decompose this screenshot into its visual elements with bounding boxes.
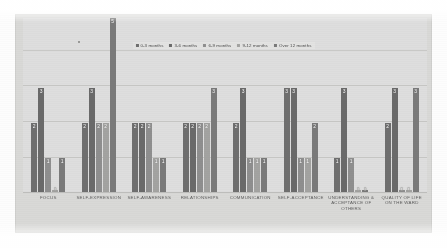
- bar-value-label: 3: [90, 89, 93, 94]
- bar[interactable]: 2: [139, 123, 145, 193]
- bar-value-label: 2: [97, 124, 100, 129]
- bar-value-label: 1: [263, 159, 266, 164]
- bar[interactable]: 3: [392, 88, 398, 193]
- bar[interactable]: 3: [89, 88, 95, 193]
- category-label-7: QUALITY OF LIFE ON THE WARD: [377, 195, 428, 231]
- legend-item-4[interactable]: Over 12 months: [274, 43, 312, 48]
- bar[interactable]: 2: [82, 123, 88, 193]
- bar-value-label: 1: [256, 159, 259, 164]
- bar-value-label: 3: [292, 89, 295, 94]
- bar[interactable]: 1: [334, 158, 340, 193]
- bar[interactable]: 2: [233, 123, 239, 193]
- bar[interactable]: 2: [103, 123, 109, 193]
- bar-value-label: 3: [285, 89, 288, 94]
- bar-value-label: 2: [83, 124, 86, 129]
- bar-value-label: 3: [212, 89, 215, 94]
- category-label-0: FOCUS: [23, 195, 74, 231]
- bar-value-label: 2: [191, 124, 194, 129]
- bar[interactable]: 3: [413, 88, 419, 193]
- legend-swatch-icon: [135, 44, 138, 47]
- bar[interactable]: 1: [153, 158, 159, 193]
- category-label-6: UNDERSTANDING & ACCEPTANCE OF OTHERS: [326, 195, 377, 231]
- bar[interactable]: 3: [291, 88, 297, 193]
- category-label-4: COMMUNICATION: [225, 195, 276, 231]
- scan-artifact: [78, 41, 80, 43]
- bar-value-label: 1: [350, 159, 353, 164]
- bar[interactable]: 2: [183, 123, 189, 193]
- legend-item-0[interactable]: 0-3 months: [135, 43, 163, 48]
- bar[interactable]: 2: [31, 123, 37, 193]
- bar-value-label: 1: [249, 159, 252, 164]
- bar[interactable]: 2: [312, 123, 318, 193]
- bar-value-label: 2: [386, 124, 389, 129]
- bar-value-label: 5: [111, 19, 114, 24]
- bar-value-label: 2: [104, 124, 107, 129]
- bar-value-label: 2: [205, 124, 208, 129]
- legend-label: Over 12 months: [279, 43, 312, 48]
- bar[interactable]: 1: [160, 158, 166, 193]
- category-label-1: SELF-EXPRESSION: [74, 195, 125, 231]
- bar-value-label: 2: [313, 124, 316, 129]
- legend-swatch-icon: [274, 44, 277, 47]
- bar-group: 13100: [326, 18, 377, 193]
- legend-item-2[interactable]: 6-9 months: [203, 43, 231, 48]
- legend-item-1[interactable]: 3-6 months: [169, 43, 197, 48]
- legend-label: 0-3 months: [140, 43, 163, 48]
- legend-label: 6-9 months: [208, 43, 231, 48]
- bar[interactable]: 1: [45, 158, 51, 193]
- bar[interactable]: 2: [197, 123, 203, 193]
- bar[interactable]: 2: [132, 123, 138, 193]
- legend-item-3[interactable]: 9-12 months: [237, 43, 268, 48]
- bar[interactable]: 2: [96, 123, 102, 193]
- bar[interactable]: 2: [146, 123, 152, 193]
- bar[interactable]: 5: [110, 18, 116, 193]
- bar-value-label: 1: [61, 159, 64, 164]
- chart-legend: 0-3 months3-6 months6-9 months9-12 month…: [132, 42, 314, 49]
- bar-value-label: 2: [235, 124, 238, 129]
- bar-value-label: 1: [47, 159, 50, 164]
- bar[interactable]: 3: [240, 88, 246, 193]
- bar[interactable]: 1: [247, 158, 253, 193]
- bar[interactable]: 1: [254, 158, 260, 193]
- bar-value-label: 3: [393, 89, 396, 94]
- legend-swatch-icon: [237, 44, 240, 47]
- bar[interactable]: 1: [261, 158, 267, 193]
- bar-value-label: 2: [148, 124, 151, 129]
- bar-value-label: 1: [299, 159, 302, 164]
- legend-label: 9-12 months: [242, 43, 268, 48]
- bar[interactable]: 1: [348, 158, 354, 193]
- bar[interactable]: 2: [190, 123, 196, 193]
- bar[interactable]: 1: [59, 158, 65, 193]
- bar-value-label: 2: [33, 124, 36, 129]
- bar[interactable]: 2: [204, 123, 210, 193]
- bar-value-label: 1: [162, 159, 165, 164]
- bar[interactable]: 1: [305, 158, 311, 193]
- bar[interactable]: 2: [385, 123, 391, 193]
- category-label-3: RELATIONSHIPS: [175, 195, 226, 231]
- bar-value-label: 1: [336, 159, 339, 164]
- screenshot-root: 2310123225222112222323111331121310023003…: [0, 0, 447, 248]
- bar[interactable]: 3: [211, 88, 217, 193]
- bar[interactable]: 3: [38, 88, 44, 193]
- bar-value-label: 2: [134, 124, 137, 129]
- bar-value-label: 2: [184, 124, 187, 129]
- bar-value-label: 2: [198, 124, 201, 129]
- bar-group: 23003: [377, 18, 428, 193]
- bar-group: 23101: [23, 18, 74, 193]
- legend-swatch-icon: [203, 44, 206, 47]
- bar-value-label: 3: [414, 89, 417, 94]
- legend-label: 3-6 months: [174, 43, 197, 48]
- category-label-5: SELF-ACCEPTANCE: [276, 195, 327, 231]
- category-label-2: SELF-AWARENESS: [124, 195, 175, 231]
- bar-value-label: 3: [40, 89, 43, 94]
- bar-value-label: 3: [343, 89, 346, 94]
- axis-baseline: [23, 192, 427, 193]
- category-axis: FOCUSSELF-EXPRESSIONSELF-AWARENESSRELATI…: [23, 195, 427, 231]
- bar[interactable]: 1: [298, 158, 304, 193]
- bar-value-label: 1: [306, 159, 309, 164]
- bar[interactable]: 3: [341, 88, 347, 193]
- chart-plate: 2310123225222112222323111331121310023003…: [15, 14, 432, 233]
- bar-group: 23225: [74, 18, 125, 193]
- bar[interactable]: 3: [284, 88, 290, 193]
- bar-value-label: 1: [155, 159, 158, 164]
